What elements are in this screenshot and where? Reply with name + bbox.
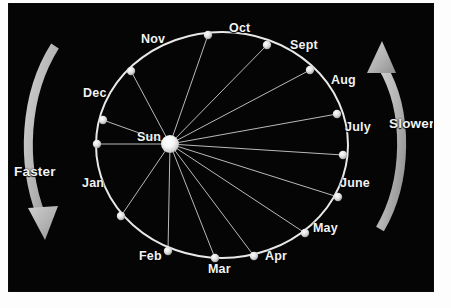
- month-label-jan: Jan: [82, 177, 104, 190]
- radial-line: [170, 144, 305, 233]
- radial-line: [170, 144, 254, 256]
- month-label-oct: Oct: [229, 22, 250, 35]
- month-dot-feb: [164, 247, 172, 255]
- month-dot-nov: [204, 31, 212, 39]
- month-label-sept: Sept: [290, 39, 318, 52]
- faster-arrow: [28, 46, 58, 240]
- slower-arrow: [367, 41, 402, 229]
- radial-line: [170, 144, 338, 197]
- month-label-feb: Feb: [139, 250, 162, 263]
- annotation-label-faster: Faster: [14, 165, 56, 179]
- month-label-mar: Mar: [208, 263, 231, 276]
- orbit-dot: [93, 140, 101, 148]
- radial-line: [170, 35, 208, 144]
- radial-line: [170, 144, 215, 258]
- month-dot-may: [301, 229, 309, 237]
- month-label-apr: Apr: [265, 250, 287, 263]
- orbit-diagram-svg: [8, 3, 434, 292]
- radial-line: [168, 144, 170, 251]
- month-dot-dec: [99, 116, 107, 124]
- month-dot-july: [339, 151, 347, 159]
- radial-line: [121, 144, 170, 216]
- month-label-july: July: [345, 121, 371, 134]
- sun-label: Sun: [137, 131, 161, 144]
- month-dot-jan: [117, 212, 125, 220]
- radial-line: [170, 70, 310, 144]
- sun-sphere: [161, 135, 179, 153]
- month-label-nov: Nov: [141, 33, 165, 46]
- month-dot-aug: [333, 110, 341, 118]
- month-dot-sept: [306, 66, 314, 74]
- month-label-dec: Dec: [83, 87, 107, 100]
- month-dot-apr: [250, 252, 258, 260]
- month-label-june: June: [340, 177, 370, 190]
- month-label-may: May: [313, 222, 338, 235]
- orbit-dot: [127, 67, 135, 75]
- month-dot-mar: [211, 254, 219, 262]
- month-dot-oct: [263, 41, 271, 49]
- annotation-label-slower: Slower: [389, 117, 434, 131]
- figure-canvas: NovOctSeptAugJulyJuneMayAprMarFebJanDecS…: [0, 0, 451, 308]
- radial-line: [170, 144, 343, 155]
- diagram-panel: NovOctSeptAugJulyJuneMayAprMarFebJanDecS…: [8, 3, 434, 292]
- month-dot-june: [334, 193, 342, 201]
- month-label-aug: Aug: [331, 74, 356, 87]
